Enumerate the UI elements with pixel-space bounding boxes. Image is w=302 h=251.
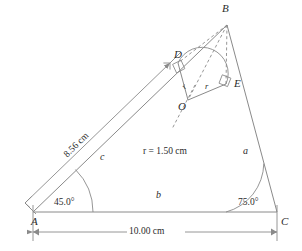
dimension-arrow-c-start <box>25 196 32 209</box>
side-label-c: c <box>100 152 104 162</box>
dimension-tick-c-A <box>25 203 36 214</box>
vertex-label-C: C <box>281 216 288 227</box>
angle-arc-A <box>76 170 94 212</box>
angle-label-A: 45.0° <box>54 198 74 208</box>
construction-line-BE <box>226 25 227 84</box>
vertex-label-D: D <box>174 49 182 60</box>
vertex-label-A: A <box>31 216 38 227</box>
dimension-label-base: 10.00 cm <box>129 227 164 237</box>
side-label-a: a <box>243 146 248 156</box>
angle-label-C: 75.0° <box>238 198 258 208</box>
construction-line-BD <box>178 25 227 63</box>
geometry-figure: A B C D E O c b a 45.0° 75.0° 10.00 cm 8… <box>0 0 302 251</box>
vertex-label-B: B <box>222 3 229 14</box>
dimension-arrow-base-right <box>271 229 277 236</box>
radius-leg-label-OE: r <box>205 82 208 91</box>
dimension-arrow-base-left <box>33 229 39 236</box>
triangle-side-a-BC <box>227 25 277 212</box>
figure-canvas <box>0 0 302 251</box>
side-label-b: b <box>156 190 161 200</box>
dimension-line-c <box>25 63 170 203</box>
triangle-side-c-AB <box>33 25 227 212</box>
vertex-label-E: E <box>234 78 241 89</box>
vertex-label-O: O <box>178 101 186 112</box>
radius-value-label: r = 1.50 cm <box>143 147 187 157</box>
